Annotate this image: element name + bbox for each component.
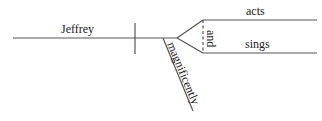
subject-word: Jeffrey	[61, 22, 94, 36]
predicate-word-upper: acts	[246, 4, 265, 18]
fork-upper	[177, 20, 203, 38]
conjunction-word: and	[204, 30, 218, 47]
sentence-diagram: Jeffrey acts sings and magnificently	[0, 0, 322, 121]
predicate-word-lower: sings	[245, 37, 270, 51]
